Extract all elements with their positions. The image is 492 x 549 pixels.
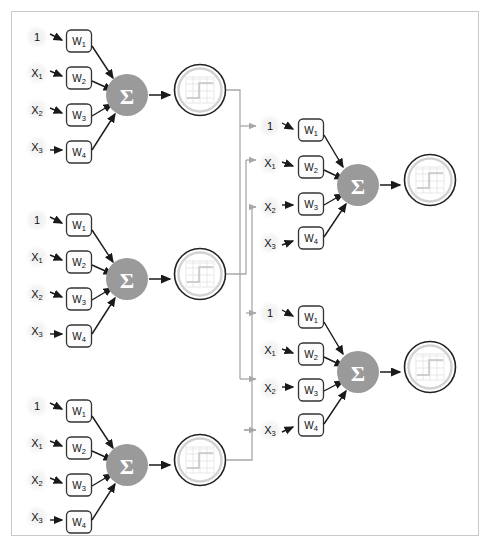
input-arrow	[50, 108, 62, 113]
weight-to-sum-arrow	[92, 46, 113, 78]
input-label-bias: 1	[34, 214, 40, 226]
weight-to-sum-arrow	[92, 416, 113, 448]
input-arrow	[50, 255, 62, 260]
input-arrow	[282, 310, 293, 316]
input-arrow	[50, 71, 62, 76]
input-arrow	[50, 403, 62, 409]
activation-function-node[interactable]	[405, 155, 456, 206]
sum-symbol: Σ	[120, 454, 134, 479]
activation-function-node[interactable]	[175, 65, 226, 116]
input-label-bias: 1	[267, 120, 273, 132]
weight-to-sum-arrow	[92, 298, 115, 334]
interconnect-bus	[226, 90, 256, 460]
input-label-bias: 1	[34, 31, 40, 43]
input-arrow	[282, 241, 293, 245]
layer1-neuron-2: 1 X1 X2 X3 W1 W2 W3 W4 Σ	[24, 207, 226, 347]
input-arrow	[50, 34, 62, 40]
layer1-neuron-3: 1 X1 X2 X3 W1 W2 W3 W4 Σ	[24, 393, 226, 533]
weight-to-sum-arrow	[324, 204, 346, 237]
input-arrow	[282, 349, 293, 353]
input-arrow	[282, 427, 293, 432]
sum-symbol: Σ	[120, 268, 134, 293]
network-diagram-svg: 1 X1 X2 X3 W1 W2 W3 W4 Σ	[0, 0, 492, 549]
weight-to-sum-arrow	[324, 135, 343, 167]
layer2-neuron-2: 1 X1 X2 X3 W1 W2 W3 W4 Σ	[257, 300, 456, 443]
input-label-bias: 1	[267, 307, 273, 319]
weight-to-sum-arrow	[324, 391, 346, 424]
activation-function-node[interactable]	[405, 342, 456, 393]
input-arrow	[282, 162, 293, 166]
input-arrow	[282, 123, 293, 129]
activation-function-node[interactable]	[175, 435, 226, 486]
bus-line-from-neuron3	[226, 207, 252, 460]
diagram-canvas: 1 X1 X2 X3 W1 W2 W3 W4 Σ	[0, 0, 492, 549]
weight-to-sum-arrow	[324, 322, 343, 354]
sum-symbol: Σ	[351, 174, 365, 199]
layer1-neuron-1: 1 X1 X2 X3 W1 W2 W3 W4 Σ	[24, 24, 226, 163]
weight-to-sum-arrow	[92, 114, 115, 150]
weight-to-sum-arrow	[92, 230, 113, 262]
bus-line-from-neuron2	[226, 160, 246, 274]
input-arrow	[50, 217, 62, 223]
bus-line-from-neuron1	[226, 90, 240, 379]
sum-symbol: Σ	[120, 84, 134, 109]
sum-symbol: Σ	[351, 361, 365, 386]
weight-to-sum-arrow	[92, 484, 115, 520]
input-arrow	[50, 292, 62, 297]
input-arrow	[50, 478, 62, 483]
input-label-bias: 1	[34, 400, 40, 412]
input-arrow	[50, 441, 62, 446]
layer2-neuron-1: 1 X1 X2 X3 W1 W2 W3 W4 Σ	[257, 113, 456, 256]
activation-function-node[interactable]	[175, 249, 226, 300]
